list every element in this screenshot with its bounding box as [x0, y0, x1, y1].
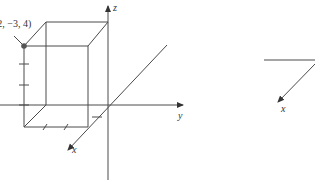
left-diagram: z y x — [0, 2, 183, 180]
y-axis-label: y — [177, 110, 183, 121]
coordinate-figure: z y x — [0, 0, 315, 182]
x-axis-right — [278, 64, 315, 102]
x-axis-label-right: x — [280, 103, 286, 114]
point-label: (2, −3, 4) — [0, 18, 31, 30]
point-marker — [21, 43, 27, 49]
coordinate-box — [24, 22, 108, 127]
right-diagram: x — [264, 60, 315, 114]
x-axis — [68, 45, 167, 150]
x-axis-label: x — [71, 144, 77, 155]
z-axis-label: z — [112, 2, 117, 13]
